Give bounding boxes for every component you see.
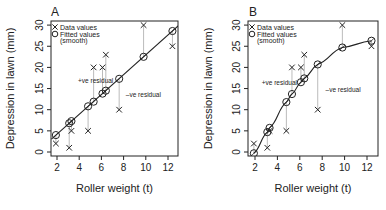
legend-fitted-label-2: (smooth) — [257, 37, 285, 45]
legend-data-label: Data values — [257, 24, 294, 31]
y-axis-label: Depression in lawn (mm) — [4, 28, 16, 150]
y-axis-label: Depression in lawn (mm) — [202, 28, 214, 150]
y-tick-label: 20 — [231, 61, 242, 73]
y-tick-label: 10 — [231, 104, 242, 116]
y-tick-label: 5 — [231, 128, 242, 134]
legend: Data valuesFitted values(smooth) — [249, 24, 297, 45]
x-tick-label: 4 — [275, 162, 281, 173]
x-axis-label: Roller weight (t) — [76, 182, 153, 194]
panel-title: B — [249, 5, 257, 19]
legend-data-label: Data values — [60, 24, 97, 31]
legend: Data valuesFitted values(smooth) — [52, 24, 100, 45]
x-tick-label: 8 — [319, 162, 325, 173]
y-tick-label: 30 — [231, 19, 242, 31]
y-tick-label: 25 — [231, 40, 242, 52]
neg-residual-label: –ve residual — [126, 91, 162, 98]
x-tick-label: 8 — [121, 162, 127, 173]
chart-figure: A24681012051015202530Roller weight (t)De… — [0, 0, 386, 210]
y-tick-label: 15 — [34, 83, 45, 95]
neg-residual-label: –ve residual — [326, 86, 362, 93]
pos-residual-label: +ve residual — [78, 77, 114, 84]
y-tick-label: 5 — [34, 128, 45, 134]
x-axis-label: Roller weight (t) — [274, 182, 351, 194]
x-tick-label: 12 — [361, 162, 373, 173]
fitted-curve — [254, 41, 372, 154]
legend-circle-icon — [249, 31, 255, 37]
pos-residual-label: +ve residual — [262, 79, 298, 86]
panel-a: A24681012051015202530Roller weight (t)De… — [4, 5, 179, 194]
panel-title: A — [51, 5, 59, 19]
y-tick-label: 10 — [34, 104, 45, 116]
legend-circle-icon — [52, 31, 58, 37]
x-tick-label: 6 — [297, 162, 303, 173]
x-tick-label: 10 — [140, 162, 152, 173]
x-tick-label: 2 — [252, 162, 258, 173]
y-tick-label: 25 — [34, 40, 45, 52]
x-tick-label: 12 — [162, 162, 174, 173]
x-tick-label: 2 — [54, 162, 60, 173]
x-tick-label: 4 — [76, 162, 82, 173]
x-tick-label: 10 — [339, 162, 351, 173]
y-tick-label: 30 — [34, 19, 45, 31]
x-tick-label: 6 — [99, 162, 105, 173]
y-tick-label: 0 — [231, 149, 242, 155]
y-tick-label: 0 — [34, 149, 45, 155]
y-tick-label: 15 — [231, 83, 242, 95]
panel-b: B24681012051015202530Roller weight (t)De… — [202, 5, 378, 194]
y-tick-label: 20 — [34, 61, 45, 73]
legend-fitted-label-2: (smooth) — [60, 37, 88, 45]
